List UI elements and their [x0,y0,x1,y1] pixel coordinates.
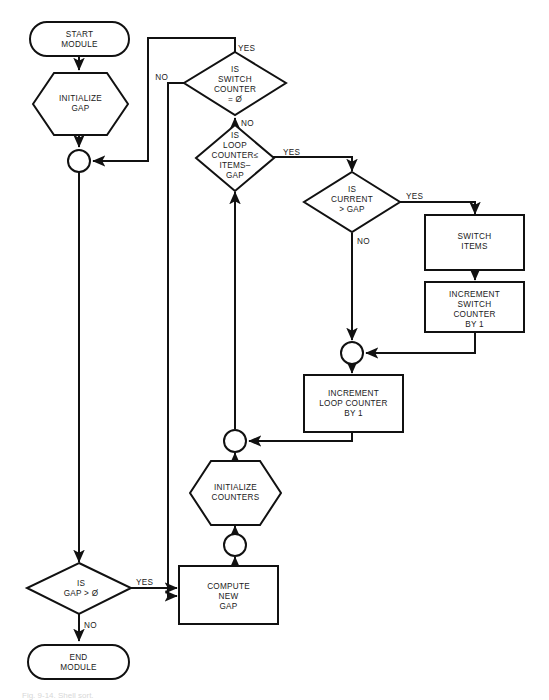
node-switch-counter-line3: COUNTER [214,85,256,94]
label-gap-positive-no: NO [84,621,97,630]
node-current-gap-line1: IS [348,185,357,194]
node-loop-counter-line4: ITEMS– [219,161,250,170]
node-loop-counter-line5: GAP [226,171,244,180]
edge-switch-counter-no-to-compute-gap [168,83,185,596]
connector-node-b[interactable] [341,342,363,364]
node-loop-counter-line3: COUNTER≤ [212,151,259,160]
edge-current-gap-yes-to-switch-items [399,202,475,214]
figure-caption: Fig. 9-14. Shell sort. [22,691,94,700]
node-loop-counter-line1: IS [231,131,240,140]
node-is-gap-positive[interactable]: IS GAP > Ø [27,563,131,614]
node-switch-items-line2: ITEMS [461,242,488,251]
node-init-counters-line2: COUNTERS [212,493,260,502]
node-current-gap-line3: > GAP [339,205,365,214]
edge-loop-counter-yes-to-current-gap [273,157,352,171]
label-gap-positive-yes: YES [136,578,153,587]
connector-node-a[interactable] [68,150,90,172]
node-initialize-gap[interactable]: INITIALIZE GAP [33,73,128,135]
node-end-module[interactable]: END MODULE [28,645,129,679]
node-inc-switch-line4: BY 1 [465,320,484,329]
edges [79,38,475,641]
node-start-line2: MODULE [61,40,98,49]
edge-inc-loop-to-conn-c [249,432,352,441]
node-compute-gap-line3: GAP [219,602,237,611]
node-is-loop-counter-le[interactable]: IS LOOP COUNTER≤ ITEMS– GAP [196,125,274,191]
node-gap-positive-line1: IS [77,579,86,588]
node-inc-loop-line1: INCREMENT [328,389,379,398]
node-start-module[interactable]: START MODULE [30,22,129,56]
node-compute-gap-line1: COMPUTE [207,582,250,591]
node-switch-items-line1: SWITCH [458,232,492,241]
edge-inc-switch-to-conn-b [366,332,475,353]
node-compute-gap-line2: NEW [219,592,239,601]
node-inc-switch-line2: SWITCH [458,300,492,309]
node-initialize-counters[interactable]: INITIALIZE COUNTERS [190,461,281,525]
label-loop-counter-yes: YES [283,148,300,157]
node-current-gap-line2: CURRENT [331,195,373,204]
node-switch-items[interactable]: SWITCH ITEMS [425,215,524,270]
node-end-line2: MODULE [60,663,97,672]
node-loop-counter-line2: LOOP [223,141,247,150]
label-current-gap-no: NO [357,237,370,246]
label-switch-counter-yes: YES [238,44,255,53]
node-is-switch-counter-zero[interactable]: IS SWITCH COUNTER = Ø [184,52,286,115]
node-gap-positive-line2: GAP > Ø [64,589,99,598]
connector-node-d[interactable] [224,534,246,556]
node-inc-switch-line3: COUNTER [453,310,495,319]
node-increment-switch-counter[interactable]: INCREMENT SWITCH COUNTER BY 1 [425,282,524,332]
node-compute-new-gap[interactable]: COMPUTE NEW GAP [179,566,278,624]
node-switch-counter-line2: SWITCH [218,75,252,84]
label-switch-counter-no-left: NO [155,73,168,82]
node-is-current-gt-gap[interactable]: IS CURRENT > GAP [304,172,400,232]
node-switch-counter-line4: = Ø [228,95,243,104]
node-inc-loop-line3: BY 1 [344,409,363,418]
node-switch-counter-line1: IS [231,65,240,74]
label-switch-counter-no-bottom: NO [241,119,254,128]
node-start-line1: START [66,30,93,39]
node-init-counters-line1: INITIALIZE [214,483,257,492]
edge-labels: YES NO NO YES YES NO YES NO [84,44,423,630]
connector-node-c[interactable] [224,430,246,452]
node-init-gap-line2: GAP [71,104,89,113]
node-end-line1: END [69,653,87,662]
node-increment-loop-counter[interactable]: INCREMENT LOOP COUNTER BY 1 [304,375,403,432]
node-init-gap-line1: INITIALIZE [59,94,102,103]
label-current-gap-yes: YES [406,192,423,201]
nodes: START MODULE INITIALIZE GAP IS SWITCH CO… [27,22,524,679]
node-inc-switch-line1: INCREMENT [449,290,500,299]
node-inc-loop-line2: LOOP COUNTER [319,399,387,408]
